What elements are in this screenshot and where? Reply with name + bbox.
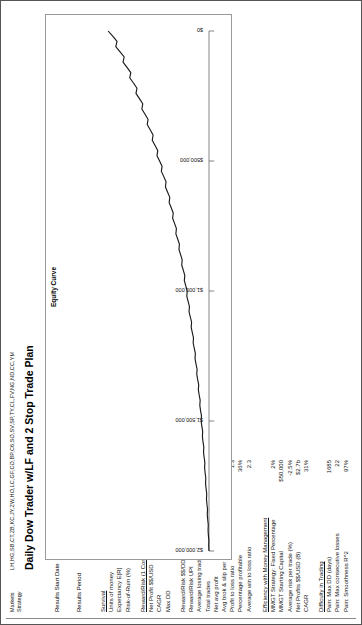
stat-value: 97% xyxy=(342,460,350,516)
group-efficiency: Efficiency with Money Management MMGT St… xyxy=(261,460,310,612)
chart-title: Equity Curve xyxy=(50,15,57,559)
strategy-row: Strategy xyxy=(16,12,23,612)
stat-label: Net Profits $$/USD (B) xyxy=(294,516,302,612)
report-header: Markets LH,HG,SB,CT,ZB,KC,JY,ZW,HO,LC,GF… xyxy=(9,12,35,612)
stat-value: $50,000 xyxy=(277,460,285,516)
stat-value: 2.3 xyxy=(245,460,253,516)
chart-tick-label: $0 xyxy=(197,27,203,33)
stat-row: CAGR31% xyxy=(302,460,310,612)
stat-value: 36% xyxy=(236,460,244,516)
group-difficulty: Difficulty in Trading Pain: Max DD (days… xyxy=(317,460,350,612)
stat-row: MMGT Strategy: Fixed Percentage2% xyxy=(269,460,277,612)
stat-row: MMGT Starting Capital$50,000 xyxy=(277,460,285,612)
group-difficulty-heading: Difficulty in Trading xyxy=(317,460,325,612)
chart-tick-label: $1,000,000 xyxy=(175,287,203,293)
equity-curve-chart: Equity Curve $2,000,000$1,500,000$1,000,… xyxy=(45,14,232,560)
stat-label: MMGT Strategy: Fixed Percentage xyxy=(269,516,277,612)
stat-label: Average risk per trade (%) xyxy=(286,516,294,612)
stat-row: Average risk per trade (%)-2.5% xyxy=(286,460,294,612)
stat-label: Average win to loss ratio xyxy=(245,516,253,612)
strategy-label: Strategy xyxy=(16,570,23,612)
stat-value: 22 xyxy=(333,460,341,516)
stat-row: Percentage profitable36% xyxy=(236,460,244,612)
stat-value: 2% xyxy=(269,460,277,516)
stat-row: Net Profits $$/USD (B)$2.7b xyxy=(294,460,302,612)
stat-label: CAGR xyxy=(302,516,310,612)
stat-value: -2.5% xyxy=(286,460,294,516)
chart-tick-label: $2,000,000 xyxy=(175,547,203,553)
stat-value: $2.7b xyxy=(294,460,302,516)
stat-label: MMGT Starting Capital xyxy=(277,516,285,612)
markets-label: Markets xyxy=(9,570,16,612)
stat-value: 1685 xyxy=(325,460,333,516)
group-efficiency-heading: Efficiency with Money Management xyxy=(261,460,269,612)
markets-value: LH,HG,SB,CT,ZB,KC,JY,ZW,HO,LC,GF,CO,BP,C… xyxy=(9,352,16,570)
chart-tick-label: $500,000 xyxy=(180,157,203,163)
chart-plot-area: $2,000,000$1,500,000$1,000,000$500,000$0 xyxy=(76,31,209,551)
stat-label: Pain: Max DD (days) xyxy=(325,516,333,612)
chart-axis xyxy=(209,31,214,551)
stat-row: Pain: Max DD (days)1685 xyxy=(325,460,333,612)
stat-row: Average win to loss ratio2.3 xyxy=(245,460,253,612)
stat-label: Percentage profitable xyxy=(236,516,244,612)
page-title: Daily Dow Trader w/LF and 2 Stop Trade P… xyxy=(23,12,35,612)
stat-row: Pain: Max consecutive losses22 xyxy=(333,460,341,612)
stat-label: Pain: Smoothness R^2 xyxy=(342,516,350,612)
markets-row: Markets LH,HG,SB,CT,ZB,KC,JY,ZW,HO,LC,GF… xyxy=(9,12,16,612)
stat-value: 31% xyxy=(302,460,310,516)
stat-label: Pain: Max consecutive losses xyxy=(333,516,341,612)
stat-row: Pain: Smoothness R^297% xyxy=(342,460,350,612)
report-sheet: Markets LH,HG,SB,CT,ZB,KC,JY,ZW,HO,LC,GF… xyxy=(0,0,362,625)
chart-tick-label: $1,500,000 xyxy=(175,417,203,423)
